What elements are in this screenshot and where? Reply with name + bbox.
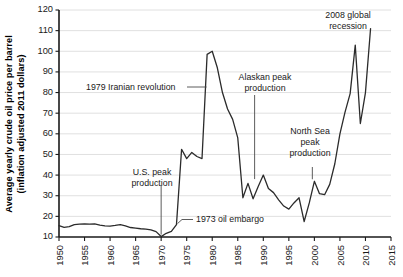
y-axis-title: Average yearly crude oil price per barre… [4, 35, 26, 212]
annotation-label: 2008 global [325, 10, 371, 20]
x-tick-label: 2000 [310, 245, 320, 266]
y-tick-label: 50 [43, 149, 53, 159]
annotation-label: production [289, 148, 330, 158]
annotation-leader-line [178, 220, 194, 224]
x-tick-label: 1975 [182, 245, 192, 266]
y-tick-label: 70 [43, 108, 53, 118]
x-tick-label: 1970 [157, 245, 167, 266]
x-tick-label: 2005 [336, 245, 346, 266]
x-tick-label: 1985 [233, 245, 243, 266]
y-tick-label: 20 [43, 211, 53, 221]
annotation-label: recession [329, 21, 367, 31]
y-tick-label: 120 [37, 4, 53, 14]
x-tick-label: 1960 [106, 245, 116, 266]
x-tick-label: 1955 [80, 245, 90, 266]
annotation-label: peak [300, 137, 320, 147]
x-tick-label: 2010 [361, 245, 371, 266]
x-tick-label: 1980 [208, 245, 218, 266]
oil-price-line-chart: 102030405060708090100110120 195019551960… [0, 0, 403, 277]
annotation-iranian-revolution-1979: 1979 Iranian revolution [86, 82, 207, 92]
y-tick-label: 40 [43, 170, 53, 180]
annotation-label: U.S. peak [133, 167, 172, 177]
chart-annotations: U.S. peakproduction1973 oil embargo1979 … [86, 10, 371, 235]
annotation-label: North Sea [290, 126, 330, 136]
x-tick-label: 1950 [55, 245, 65, 266]
x-tick-label: 2015 [387, 245, 397, 266]
gridlines [59, 10, 391, 216]
y-tick-label: 110 [38, 25, 53, 35]
y-axis-ticks: 102030405060708090100110120 [37, 4, 59, 241]
y-tick-label: 60 [43, 128, 53, 138]
x-tick-label: 1995 [284, 245, 294, 266]
y-axis-title-line2: (inflation adjusted 2011 dollars) [16, 55, 26, 194]
annotation-global-recession-2008: 2008 globalrecession [325, 10, 371, 42]
y-tick-label: 10 [43, 231, 53, 241]
x-tick-label: 1990 [259, 245, 269, 266]
y-tick-label: 100 [37, 46, 53, 56]
y-axis-title-line1: Average yearly crude oil price per barre… [4, 35, 14, 212]
annotation-label: 1979 Iranian revolution [86, 82, 176, 92]
annotation-label: production [131, 178, 172, 188]
annotation-oil-embargo-1973: 1973 oil embargo [178, 214, 265, 224]
annotation-alaskan-peak-production: Alaskan peakproduction [239, 72, 292, 179]
y-tick-label: 30 [43, 190, 53, 200]
annotation-label: Alaskan peak [239, 72, 292, 82]
annotation-label: 1973 oil embargo [196, 214, 264, 224]
annotation-north-sea-peak-production: North Seapeakproduction [289, 126, 330, 179]
x-axis-ticks: 1950195519601965197019751980198519901995… [55, 237, 397, 266]
chart-canvas: 102030405060708090100110120 195019551960… [0, 0, 403, 277]
annotation-label: production [244, 83, 285, 93]
annotation-us-peak-production: U.S. peakproduction [131, 167, 172, 235]
x-tick-label: 1965 [131, 245, 141, 266]
y-tick-label: 90 [43, 66, 53, 76]
y-tick-label: 80 [43, 87, 53, 97]
